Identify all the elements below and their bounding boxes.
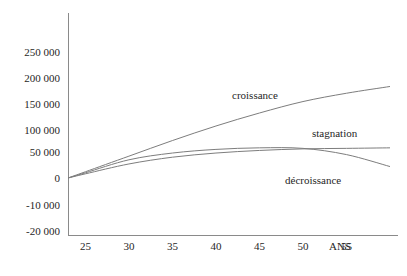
x-axis-tick-labels: 25303540455055: [80, 240, 353, 252]
series-label-stagnation: stagnation: [312, 127, 358, 139]
x-axis-tick-label: 40: [210, 240, 222, 252]
y-axis-tick-label: 100 000: [24, 124, 60, 136]
y-axis-tick-label: 150 000: [24, 98, 60, 110]
line-chart: 250 000200 000150 000100 00050 0000-10 0…: [0, 0, 407, 276]
y-axis-tick-label: -10 000: [26, 199, 60, 211]
x-axis-tick-label: 50: [297, 240, 309, 252]
y-axis-tick-label: -20 000: [26, 225, 60, 237]
series-label-croissance: croissance: [232, 89, 278, 101]
y-axis-tick-label: 0: [55, 172, 61, 184]
y-axis-tick-label: 50 000: [30, 146, 61, 158]
x-axis-caption: ANS: [329, 240, 351, 252]
chart-container: 250 000200 000150 000100 00050 0000-10 0…: [0, 0, 407, 276]
series-label-decroissance: décroissance: [285, 174, 341, 186]
chart-axes: [68, 13, 398, 235]
y-axis-tick-label: 200 000: [24, 72, 60, 84]
x-axis-tick-label: 25: [80, 240, 92, 252]
x-axis-tick-label: 35: [167, 240, 179, 252]
y-axis-tick-labels: 250 000200 000150 000100 00050 0000-10 0…: [24, 46, 60, 237]
y-axis-tick-label: 250 000: [24, 46, 60, 58]
x-axis-tick-label: 45: [254, 240, 266, 252]
x-axis-tick-label: 30: [123, 240, 135, 252]
